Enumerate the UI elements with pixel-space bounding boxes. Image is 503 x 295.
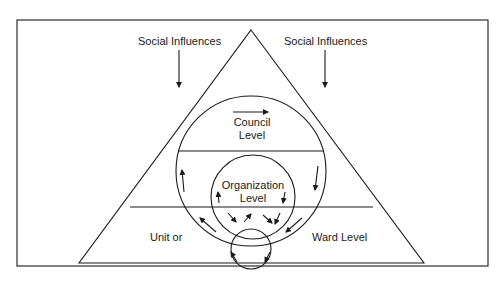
pyramid-triangle bbox=[79, 30, 424, 263]
flow-arrow bbox=[263, 215, 272, 223]
pyramid-diagram bbox=[0, 0, 503, 295]
flow-arrow bbox=[200, 218, 216, 232]
flow-arrow bbox=[218, 192, 219, 203]
organization-label-line2: Level bbox=[220, 192, 286, 205]
social-influences-right-label: Social Influences bbox=[284, 35, 367, 48]
flow-arrow bbox=[228, 213, 236, 222]
organization-label-line1: Organization bbox=[220, 179, 286, 192]
council-level-label: Council Level bbox=[230, 116, 274, 142]
flow-arrow bbox=[275, 213, 280, 224]
unit-level-label: Unit or bbox=[150, 231, 182, 244]
flow-arrow bbox=[244, 214, 251, 222]
ward-level-label: Ward Level bbox=[312, 231, 367, 244]
flow-arrow bbox=[315, 166, 318, 190]
council-label-line2: Level bbox=[230, 129, 274, 142]
council-label-line1: Council bbox=[230, 116, 274, 129]
flow-arrow bbox=[182, 170, 184, 192]
organization-level-label: Organization Level bbox=[220, 179, 286, 205]
social-influences-left-label: Social Influences bbox=[138, 35, 221, 48]
